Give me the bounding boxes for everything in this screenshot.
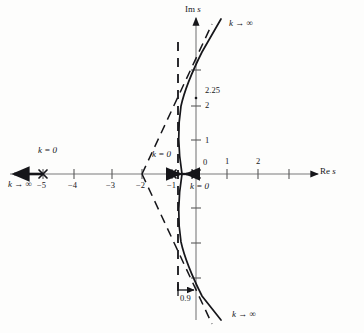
tick-label-x-1: 1 [225,157,229,166]
annotation-k-zero-origin: k = 0 [190,182,209,191]
tick-label-x-0: 0 [203,158,207,167]
annotation-k-infinity-real: k → ∞ [8,180,32,189]
tick-label-y-2p25: 2.25 [205,86,220,95]
annotation-k-infinity-upper: k → ∞ [229,19,253,28]
tick-label-x-minus2: −2 [136,181,145,190]
marker-imag-crossing-2p25 [195,97,198,100]
annotation-k-zero-minus5: k = 0 [38,146,57,155]
axis-label-imaginary-var: s [197,4,201,14]
axis-label-real-text: s [332,166,336,176]
tick-label-x-minus1: −1 [167,181,176,190]
tick-label-x-2: 2 [256,157,260,166]
tick-label-y-1: 1 [205,136,209,145]
locus-branch-upper [179,19,221,174]
tick-label-x-minus4: −4 [68,181,77,190]
annotation-k-zero-minus1: k = 0 [152,150,171,159]
annotation-asymptote-offset: 0.9 [180,294,191,303]
annotation-k-infinity-lower: k → ∞ [232,310,256,319]
root-locus-figure: Re Re ss Im s −5 −4 −3 −2 −1 0 1 2 1 2 2… [0,0,364,333]
tick-label-y-2: 2 [205,101,209,110]
axis-label-real: Re Re ss [320,167,336,176]
tick-label-x-minus3: −3 [106,181,115,190]
axis-label-imaginary: Im s [185,5,201,14]
plot-canvas [0,0,364,333]
tick-label-x-minus5: −5 [37,181,46,190]
asymptote-lower-line [142,174,212,324]
